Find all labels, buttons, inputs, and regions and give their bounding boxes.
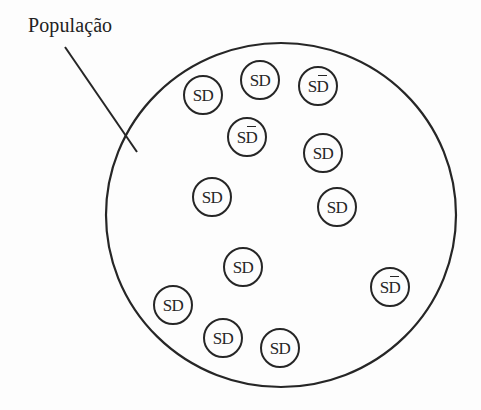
member-s-letter: S	[308, 78, 317, 95]
member-d-letter: D	[279, 340, 291, 357]
member-d-letter: D	[202, 87, 214, 104]
member-s-letter: S	[202, 189, 211, 206]
member-sd: SD	[303, 133, 343, 173]
member-d-letter: D	[322, 145, 334, 162]
member-sd: SD	[223, 247, 263, 287]
member-sd-bar: SD	[298, 66, 338, 106]
member-sd: SD	[203, 318, 243, 358]
diagram-canvas: População SDSDSDSDSDSDSDSDSDSDSDSD	[0, 0, 481, 410]
member-sd: SD	[240, 60, 280, 100]
member-d-letter: D	[172, 297, 184, 314]
member-s-letter: S	[380, 279, 389, 296]
member-s-letter: S	[270, 340, 279, 357]
population-diagram	[0, 0, 481, 410]
member-d-letter: D	[336, 199, 348, 216]
member-d-letter: D	[242, 259, 254, 276]
member-d-bar-letter: D	[317, 78, 329, 95]
member-d-letter: D	[222, 330, 234, 347]
member-s-letter: S	[163, 297, 172, 314]
member-d-bar-letter: D	[389, 279, 401, 296]
member-d-letter: D	[211, 189, 223, 206]
member-s-letter: S	[327, 199, 336, 216]
member-sd: SD	[153, 285, 193, 325]
member-s-letter: S	[237, 129, 246, 146]
member-sd: SD	[260, 328, 300, 368]
member-s-letter: S	[213, 330, 222, 347]
member-sd-bar: SD	[370, 267, 410, 307]
member-s-letter: S	[233, 259, 242, 276]
member-s-letter: S	[193, 87, 202, 104]
member-s-letter: S	[313, 145, 322, 162]
label-pointer-line	[65, 47, 137, 152]
member-sd: SD	[183, 75, 223, 115]
member-sd-bar: SD	[227, 117, 267, 157]
member-d-bar-letter: D	[246, 129, 258, 146]
member-sd: SD	[317, 187, 357, 227]
member-d-letter: D	[259, 72, 271, 89]
member-sd: SD	[192, 177, 232, 217]
member-s-letter: S	[250, 72, 259, 89]
